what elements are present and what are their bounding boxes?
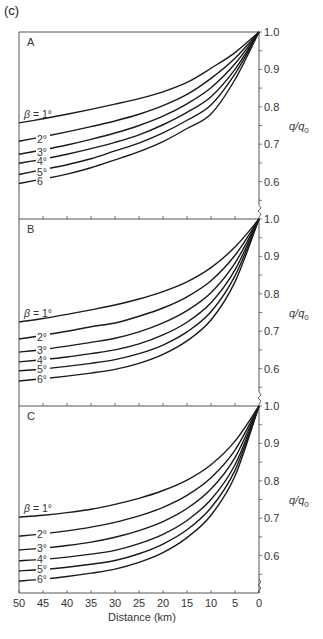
x-axis-label: Distance (km) [108, 611, 176, 623]
x-tick-label: 25 [133, 597, 145, 609]
panel-b: 1.00.90.80.70.6q/q0Bβ = 1°2°3°4°5°6° [19, 213, 309, 406]
chart-area: 1.00.90.80.70.6q/q0Aβ = 1°2°3°4°5°61.00.… [0, 0, 323, 639]
panel-label: B [27, 223, 34, 235]
curve-beta-3 [19, 406, 259, 550]
curve-label: 4° [37, 155, 47, 167]
y-tick-label: 0.7 [264, 512, 279, 524]
curve-beta-5 [19, 406, 259, 571]
axis-break-icon [258, 392, 261, 406]
curve-beta-6 [19, 32, 259, 183]
x-tick-label: 0 [256, 597, 262, 609]
y-tick-label: 0.9 [264, 250, 279, 262]
curve-label: β = 1° [23, 307, 52, 319]
curve-beta-3 [19, 32, 259, 154]
x-tick-label: 15 [181, 597, 193, 609]
y-axis-label: q/q0 [289, 494, 309, 509]
axis-break-icon [258, 205, 261, 219]
x-tick-label: 30 [109, 597, 121, 609]
curve-beta-6 [19, 219, 259, 381]
curve-beta-3 [19, 219, 259, 352]
curve-label: 2° [37, 133, 47, 145]
y-tick-label: 0.6 [264, 550, 279, 562]
curve-beta-1 [19, 406, 259, 517]
curve-beta-6 [19, 406, 259, 581]
y-axis-label: q/q0 [289, 120, 309, 135]
curve-beta-5 [19, 32, 259, 174]
x-axis: 50454035302520151050 [13, 579, 262, 609]
x-tick-label: 10 [205, 597, 217, 609]
curve-beta-2 [19, 406, 259, 536]
x-tick-label: 50 [13, 597, 25, 609]
x-tick-label: 45 [37, 597, 49, 609]
x-tick-label: 40 [61, 597, 73, 609]
y-tick-label: 0.8 [264, 101, 279, 113]
panel-label: A [27, 36, 35, 48]
curve-beta-1 [19, 219, 259, 322]
y-tick-label: 0.8 [264, 475, 279, 487]
panel-label: C [27, 410, 35, 422]
y-tick-label: 0.6 [264, 363, 279, 375]
panel-c: 1.00.90.80.70.6q/q0Cβ = 1°2°3°4°5°6° [19, 400, 309, 593]
curve-label: 6° [37, 373, 47, 385]
y-tick-label: 0.9 [264, 63, 279, 75]
y-tick-label: 1.0 [264, 400, 279, 412]
panel-a: 1.00.90.80.70.6q/q0Aβ = 1°2°3°4°5°6 [19, 26, 309, 219]
y-tick-label: 0.6 [264, 176, 279, 188]
y-tick-label: 0.7 [264, 138, 279, 150]
curve-label: 6 [37, 175, 43, 187]
curve-beta-4 [19, 406, 259, 561]
curve-label: 2° [37, 528, 47, 540]
curve-beta-4 [19, 219, 259, 362]
y-tick-label: 0.9 [264, 437, 279, 449]
curve-label: 2° [37, 331, 47, 343]
y-tick-label: 1.0 [264, 26, 279, 38]
curve-label: β = 1° [23, 108, 52, 120]
curve-label: β = 1° [23, 502, 52, 514]
y-tick-label: 1.0 [264, 213, 279, 225]
curve-label: 6° [37, 573, 47, 585]
x-tick-label: 35 [85, 597, 97, 609]
x-tick-label: 20 [157, 597, 169, 609]
x-tick-label: 5 [232, 597, 238, 609]
panels-group: 1.00.90.80.70.6q/q0Aβ = 1°2°3°4°5°61.00.… [19, 26, 309, 593]
y-tick-label: 0.7 [264, 325, 279, 337]
y-tick-label: 0.8 [264, 288, 279, 300]
y-axis-label: q/q0 [289, 307, 309, 322]
